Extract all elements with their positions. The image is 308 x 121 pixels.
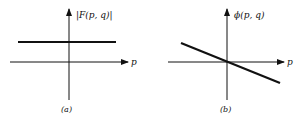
panel-b-caption: (b) <box>220 105 231 114</box>
panel-b-y-label: ϕ(p, q) <box>234 10 265 20</box>
panel-a: |F(p, q)| p (a) <box>10 9 137 114</box>
diagram-canvas: |F(p, q)| p (a) ϕ(p, q) p (b) <box>0 0 308 121</box>
panel-b-phase-line <box>181 43 280 83</box>
panel-b-x-label: p <box>287 57 293 67</box>
panel-a-x-label: p <box>131 57 137 67</box>
panel-a-caption: (a) <box>61 105 72 114</box>
figure: |F(p, q)| p (a) ϕ(p, q) p (b) <box>0 0 308 121</box>
panel-b: ϕ(p, q) p (b) <box>168 9 293 114</box>
panel-a-y-label: |F(p, q)| <box>76 10 113 21</box>
